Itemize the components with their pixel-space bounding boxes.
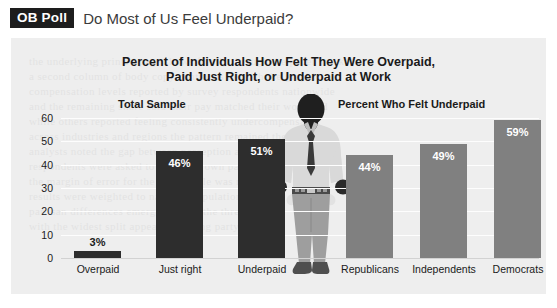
axis-baseline <box>61 258 539 259</box>
y-axis-tick-50: 50 <box>25 136 53 147</box>
poll-badge: OB Poll <box>10 8 74 29</box>
group-label-felt-underpaid: Percent Who Felt Underpaid <box>338 98 485 110</box>
group-label-total-sample: Total Sample <box>118 98 186 110</box>
category-label-independents: Independents <box>412 263 476 275</box>
bar-democrats: 59% <box>494 120 541 258</box>
bar-overpaid: 3% <box>74 251 121 258</box>
bar-underpaid: 51% <box>238 139 285 258</box>
y-axis-tick-20: 20 <box>25 206 53 217</box>
gridline-20 <box>61 211 539 212</box>
gridline-60 <box>61 118 539 119</box>
bar-value-overpaid: 3% <box>74 237 121 248</box>
y-axis-tick-60: 60 <box>25 113 53 124</box>
gridline-50 <box>61 141 539 142</box>
category-label-underpaid: Underpaid <box>238 263 286 275</box>
bar-value-democrats: 59% <box>494 127 541 138</box>
y-axis-tick-40: 40 <box>25 160 53 171</box>
bar-republicans: 44% <box>346 155 393 258</box>
bar-value-republicans: 44% <box>346 162 393 173</box>
page-title: Do Most of Us Feel Underpaid? <box>83 11 293 26</box>
category-label-republicans: Republicans <box>341 263 399 275</box>
poll-graphic: OB Poll Do Most of Us Feel Underpaid? th… <box>0 0 557 308</box>
chart-title-line-2: Paid Just Right, or Underpaid at Work <box>11 70 546 85</box>
chart-panel: the underlying printed page shows faintl… <box>11 38 546 294</box>
gridline-40 <box>61 165 539 166</box>
header: OB Poll Do Most of Us Feel Underpaid? <box>0 0 557 36</box>
gridline-10 <box>61 235 539 236</box>
y-axis-tick-10: 10 <box>25 230 53 241</box>
chart-title: Percent of Individuals How Felt They Wer… <box>11 55 546 85</box>
chart-title-line-1: Percent of Individuals How Felt They Wer… <box>11 55 546 70</box>
bar-just-right: 46% <box>156 151 203 258</box>
category-label-overpaid: Overpaid <box>77 263 120 275</box>
bar-value-independents: 49% <box>420 151 467 162</box>
gridline-30 <box>61 188 539 189</box>
y-axis-tick-0: 0 <box>25 253 53 264</box>
bar-value-underpaid: 51% <box>238 146 285 157</box>
bar-value-just-right: 46% <box>156 158 203 169</box>
category-label-democrats: Democrats <box>493 263 544 275</box>
category-label-just-right: Just right <box>159 263 202 275</box>
plot-area: 60 50 40 30 20 10 0 3% 46% 51% 44% 49% <box>61 118 539 258</box>
bar-independents: 49% <box>420 144 467 258</box>
y-axis-tick-30: 30 <box>25 183 53 194</box>
